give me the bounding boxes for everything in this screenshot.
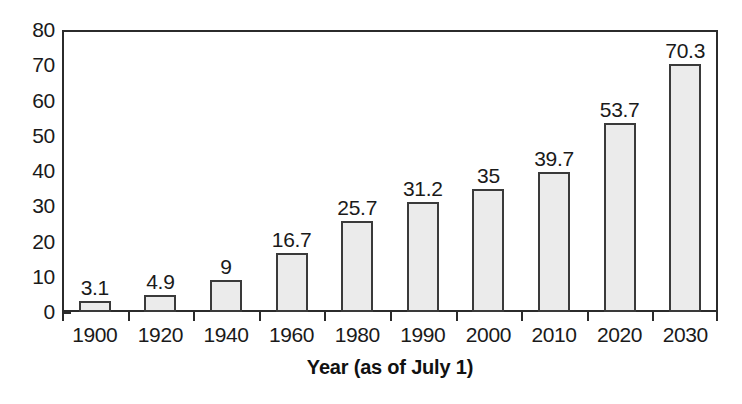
x-tick-mark — [324, 312, 326, 321]
x-tick-label: 2020 — [597, 323, 642, 347]
x-tick-label: 2000 — [466, 323, 511, 347]
x-axis-title: Year (as of July 1) — [62, 356, 718, 379]
bar-value-label: 3.1 — [81, 277, 109, 298]
x-tick-label: 1940 — [203, 323, 248, 347]
bar-group: 16.7 — [259, 30, 325, 312]
bars-layer: 3.1 4.9 9 16.7 25.7 31.2 35 39.7 — [62, 30, 718, 312]
x-tick-mark — [390, 312, 392, 321]
x-tick-label: 1960 — [269, 323, 314, 347]
y-tick-label: 40 — [0, 160, 55, 181]
bar-group: 25.7 — [324, 30, 390, 312]
x-tick-mark — [128, 312, 130, 321]
bar-value-label: 9 — [220, 256, 231, 277]
bar-rect[interactable] — [669, 64, 701, 312]
bar-value-label: 25.7 — [337, 197, 377, 218]
y-tick-label: 30 — [0, 195, 55, 216]
x-tick-label: 1990 — [400, 323, 445, 347]
x-tick-mark — [259, 312, 261, 321]
bar-rect[interactable] — [604, 123, 636, 312]
bar-rect[interactable] — [144, 295, 176, 312]
x-tick-label: 2010 — [531, 323, 576, 347]
x-tick-mark — [62, 312, 64, 321]
bar-value-label: 53.7 — [600, 99, 640, 120]
bar-rect[interactable] — [276, 253, 308, 312]
x-tick-label: 1980 — [335, 323, 380, 347]
bar-value-label: 70.3 — [665, 40, 705, 61]
y-tick-label: 10 — [0, 266, 55, 287]
bar-group: 53.7 — [587, 30, 653, 312]
x-tick-mark — [456, 312, 458, 321]
bar-rect[interactable] — [538, 172, 570, 312]
bar-group: 70.3 — [652, 30, 718, 312]
bar-value-label: 16.7 — [272, 229, 312, 250]
y-tick-label: 70 — [0, 54, 55, 75]
x-tick-mark — [587, 312, 589, 321]
bar-rect[interactable] — [407, 202, 439, 312]
x-axis-tick-labels: 1900 1920 1940 1960 1980 1990 2000 2010 … — [62, 323, 718, 351]
bar-value-label: 4.9 — [146, 271, 174, 292]
bar-group: 9 — [193, 30, 259, 312]
y-tick-label: 60 — [0, 90, 55, 111]
y-tick-label: 80 — [0, 19, 55, 40]
bar-rect[interactable] — [79, 301, 111, 312]
x-tick-mark — [716, 312, 718, 321]
y-axis-tick-labels: 0 10 20 30 40 50 60 70 80 — [0, 30, 55, 312]
x-tick-mark — [521, 312, 523, 321]
bar-value-label: 35 — [477, 165, 500, 186]
x-tick-mark — [652, 312, 654, 321]
bar-group: 35 — [456, 30, 522, 312]
bar-value-label: 39.7 — [534, 148, 574, 169]
bar-rect[interactable] — [472, 189, 504, 312]
y-tick-label: 0 — [0, 301, 55, 322]
bar-rect[interactable] — [210, 280, 242, 312]
bar-chart-figure: 0 10 20 30 40 50 60 70 80 3.1 4.9 9 — [0, 0, 742, 404]
bar-group: 31.2 — [390, 30, 456, 312]
y-tick-label: 20 — [0, 231, 55, 252]
bar-group: 3.1 — [62, 30, 128, 312]
x-tick-label: 1920 — [138, 323, 183, 347]
x-tick-label: 2030 — [663, 323, 708, 347]
bar-group: 4.9 — [128, 30, 194, 312]
x-tick-mark — [193, 312, 195, 321]
x-axis-tick-marks — [62, 312, 718, 322]
bar-rect[interactable] — [341, 221, 373, 312]
x-tick-label: 1900 — [72, 323, 117, 347]
bar-value-label: 31.2 — [403, 178, 443, 199]
y-tick-label: 50 — [0, 125, 55, 146]
bar-group: 39.7 — [521, 30, 587, 312]
